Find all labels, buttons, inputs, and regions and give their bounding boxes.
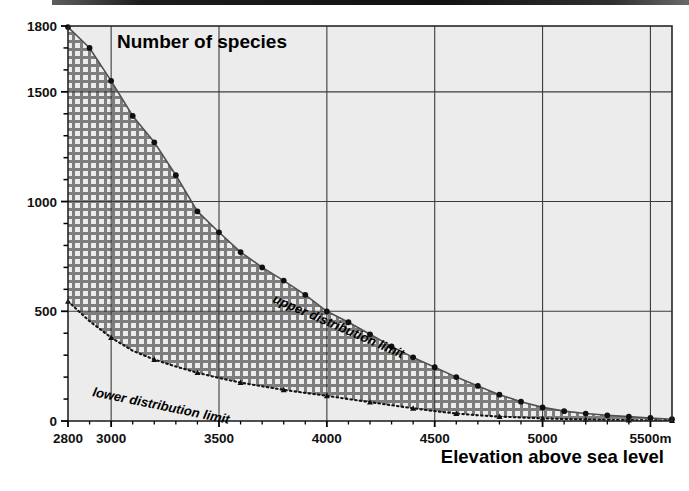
upper-point-2900	[87, 45, 93, 51]
upper-point-4900	[518, 399, 524, 405]
upper-point-4600	[453, 374, 459, 380]
x-tick-label-4500: 4500	[420, 431, 450, 446]
x-tick-label-5000: 5000	[528, 431, 558, 446]
upper-point-3200	[151, 139, 157, 145]
x-tick-label-2800: 2800	[53, 431, 83, 446]
y-tick-label-1000: 1000	[27, 195, 57, 210]
x-tick-label-4000: 4000	[312, 431, 342, 446]
upper-point-3300	[173, 172, 179, 178]
upper-point-3800	[281, 278, 287, 284]
upper-point-3100	[130, 113, 136, 119]
upper-point-5100	[561, 408, 567, 414]
upper-point-3000	[108, 78, 114, 84]
x-axis-tick-labels: 2800300035004000450050005500m	[53, 431, 671, 446]
y-axis-tick-labels: 0500100015001800	[27, 19, 57, 429]
upper-point-5500	[648, 415, 654, 421]
upper-point-4400	[410, 354, 416, 360]
x-axis-title: Elevation above sea level	[441, 446, 664, 467]
upper-point-3500	[216, 229, 222, 235]
species-elevation-chart: 0500100015001800 28003000350040004500500…	[0, 0, 689, 491]
x-tick-label-3000: 3000	[96, 431, 126, 446]
upper-point-4700	[475, 383, 481, 389]
x-tick-label-5500: 5500m	[629, 431, 671, 446]
upper-point-4500	[432, 364, 438, 370]
y-tick-label-500: 500	[34, 304, 57, 319]
y-tick-label-1800: 1800	[27, 19, 57, 34]
upper-point-3400	[195, 209, 201, 215]
chart-page: 0500100015001800 28003000350040004500500…	[0, 0, 689, 491]
upper-point-5200	[583, 411, 589, 417]
upper-point-4800	[497, 392, 503, 398]
x-tick-label-3500: 3500	[204, 431, 234, 446]
y-tick-label-1500: 1500	[27, 85, 57, 100]
upper-point-3600	[238, 249, 244, 255]
chart-title: Number of species	[117, 31, 287, 52]
y-tick-label-0: 0	[49, 414, 57, 429]
upper-point-5300	[604, 412, 610, 418]
upper-point-5000	[540, 404, 546, 410]
upper-point-3900	[302, 292, 308, 298]
upper-point-3700	[259, 264, 265, 270]
